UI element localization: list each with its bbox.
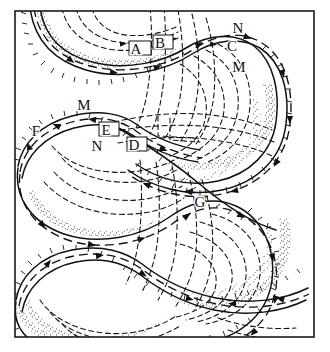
label-e: E (101, 122, 110, 138)
label-a: A (131, 41, 142, 57)
label-g: G (195, 194, 206, 210)
figure-root: A B C N M M F E N D G (0, 0, 330, 352)
label-c: C (227, 38, 237, 54)
label-m-top: M (232, 59, 245, 75)
label-d: D (129, 137, 140, 153)
label-b: B (155, 35, 165, 51)
label-n-top: N (233, 20, 244, 36)
label-m-mid: M (77, 97, 90, 113)
frontal-analysis-diagram: A B C N M M F E N D G (0, 0, 330, 352)
label-f: F (32, 123, 40, 139)
label-n-mid: N (92, 138, 103, 154)
